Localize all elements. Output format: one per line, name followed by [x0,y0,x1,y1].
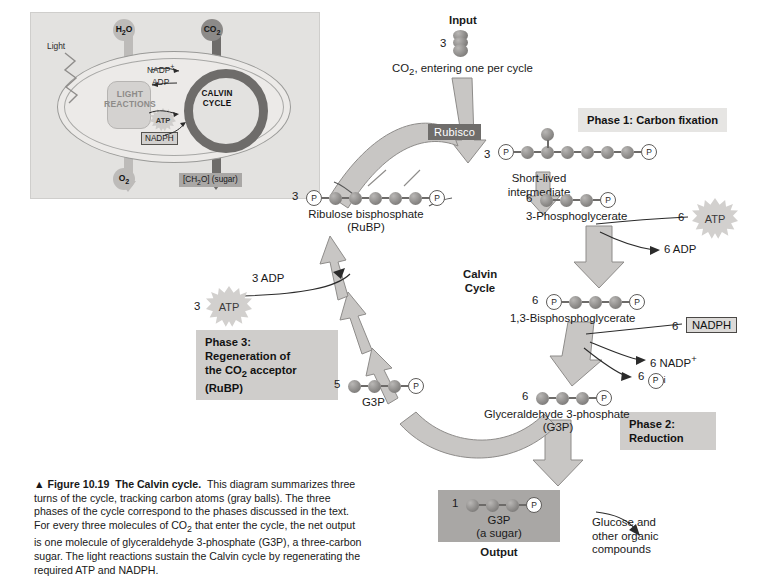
carbon-ball [576,392,589,405]
rubp-sublabel: (RuBP) [288,221,444,235]
g3p-output-sublabel: (a sugar) [438,527,560,541]
adp-label: ADP [152,77,169,87]
phosphate-icon: P [600,192,616,208]
phosphate-icon: P [546,294,562,310]
adp-phase3-label: 3 ADP [252,272,284,286]
carbon-ball [540,194,553,207]
atp-label-inset: ATP [156,116,170,125]
light-reactions-label: LIGHTREACTIONS [101,89,159,109]
phase-1-label: Phase 1: Carbon fixation [587,114,718,126]
co2-input-balls [452,30,470,58]
caption-body: This diagram summarizes three turns of t… [34,478,361,576]
output-label: Output [438,546,560,560]
pga-label: 3-Phosphoglycerate [526,210,627,224]
figure-caption: ▲ Figure 10.19 The Calvin cycle. This di… [34,478,364,577]
nadph-label-inset: NADPH [145,134,174,143]
adp-phase2-label: 6 ADP [664,243,696,257]
g3p-output-label: G3P [438,514,560,528]
input-label: Input [449,14,477,28]
g3p-regen-count: 5 [334,378,340,390]
output-destination: Glucose andother organiccompounds [592,516,676,557]
o2-bubble: O2 [113,168,135,190]
carbon-ball [389,192,402,205]
carbon-ball [561,146,574,159]
phase-3-box: Phase 3:Regeneration ofthe CO2 acceptor(… [196,330,338,400]
center-title: CalvinCycle [430,268,530,295]
caption-triangle: ▲ [34,478,45,490]
nadph-box-inset: NADPH [141,132,178,145]
carbon-ball [601,146,614,159]
bond-vertical [547,140,549,148]
pga-count: 6 [526,192,532,204]
input-description: CO2, entering one per cycle [392,62,533,79]
carbon-ball [569,296,582,309]
input-count: 3 [440,37,446,51]
atp-phase2-count: 6 [678,211,684,225]
figure-number: Figure 10.19 [47,478,112,490]
phosphate-icon: P [526,497,542,513]
phosphate-icon: P [596,390,612,406]
carbon-ball [580,194,593,207]
carbon-ball [329,192,342,205]
h2o-bubble: H2O [113,19,135,41]
phase-2-label: Phase 2:Reduction [629,418,684,444]
h2o-label: H2O [116,24,133,37]
nadph-count: 6 [672,320,678,334]
phase-1-box: Phase 1: Carbon fixation [578,108,727,132]
phosphate-icon: P [429,190,445,206]
carbon-ball [609,296,622,309]
carbon-ball [349,192,362,205]
calvin-cycle-ring-label: CALVINCYCLE [184,89,250,108]
carbon-ball [388,380,401,393]
o2-label: O2 [119,173,130,186]
nadph-label: NADPH [692,319,731,331]
co2-bubble: CO2 [201,19,223,41]
figure-title: The Calvin cycle. [115,478,204,490]
atp-starburst-phase3: ATP [206,286,252,328]
atp-starburst-phase2: ATP [692,198,738,240]
carbon-ball [466,499,479,512]
carbon-ball [556,392,569,405]
atp-phase2-label: ATP [705,213,726,225]
co2-label: CO2 [204,24,221,37]
phase-2-box: Phase 2:Reduction [620,412,716,450]
intermediate-count: 3 [484,148,490,160]
phosphate-icon: P [408,378,424,394]
g3p-cycle-sublabel: (G3P) [484,421,632,435]
g3p-cycle-label: Glyceraldehyde 3-phosphate [484,408,630,422]
rubisco-enzyme-box: Rubisco [428,124,481,140]
g3p-cycle-count: 6 [522,390,528,402]
g3p-regen-label: G3P [362,396,385,410]
nadp-plus-label: NADP+ [147,63,174,75]
carbon-ball [560,194,573,207]
bpg-count: 6 [532,294,538,306]
phosphate-icon: P [641,144,657,160]
carbon-ball [409,192,422,205]
phosphate-icon: P [629,294,645,310]
carbon-ball [506,499,519,512]
light-label: Light [47,41,65,51]
sugar-output-box: [CH2O] (sugar) [179,173,242,187]
atp-phase3-count: 3 [194,300,200,314]
phosphate-icon: P [498,144,514,160]
carbon-ball [581,146,594,159]
sugar-label: [CH2O] (sugar) [183,175,238,184]
carbon-ball [621,146,634,159]
rubp-label: Ribulose bisphosphate [288,208,444,222]
atp-phase3-label: ATP [219,301,240,313]
pi-out: 6 Pi [638,370,666,389]
phase-3-label: Phase 3:Regeneration ofthe CO2 acceptor(… [205,336,297,394]
bpg-label: 1,3-Bisphosphoglycerate [510,312,635,326]
rubp-count: 3 [292,190,298,202]
light-reactions-inset: LIGHTREACTIONS CALVINCYCLE H2O CO2 O2 Li… [30,12,320,199]
calvin-cycle-ring [184,69,268,153]
carbon-ball [589,296,602,309]
carbon-ball [521,146,534,159]
rubisco-label: Rubisco [434,126,475,138]
nadph-box: NADPH [686,317,737,333]
carbon-ball [348,380,361,393]
g3p-output-count: 1 [452,497,458,509]
carbon-ball [368,380,381,393]
carbon-ball [536,392,549,405]
figure-canvas: LIGHTREACTIONS CALVINCYCLE H2O CO2 O2 Li… [0,0,781,587]
